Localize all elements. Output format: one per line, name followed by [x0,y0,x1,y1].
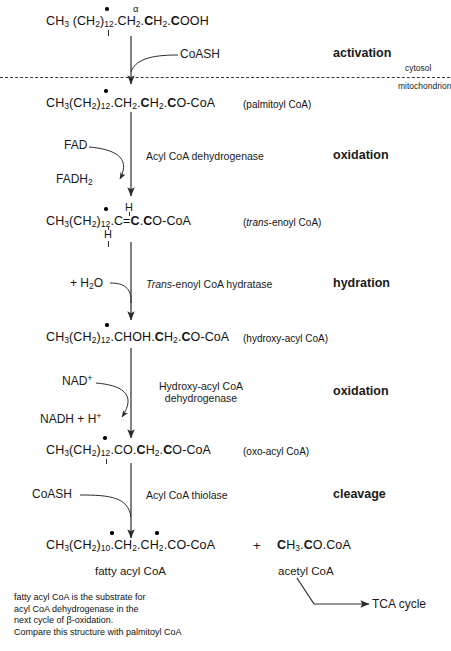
stage-label-activation: activation [333,46,391,60]
product-name-fatty-acyl-coa: fatty acyl CoA [95,565,166,577]
stage-label-oxidation-1: oxidation [333,148,389,162]
molecule-oxo-acyl-coa: CH3(CH2)12.CO.CH2.CO-CoA [46,443,211,458]
output-tca-cycle: TCA cycle [372,597,426,611]
cofactor-coash-thiolase: CoASH [32,487,72,501]
cofactor-fadh2: FADH2 [56,172,93,187]
enzyme-line-2: dehydrogenase [146,392,256,404]
hydroxy-acyl-coa-formula: CH3(CH2)12.CHOH.CH2.CO-CoA [46,330,229,344]
acetyl-coa-formula: CH3.CO.CoA [277,538,351,552]
palmitic-acid-formula: CH3 (CH2)12.CH2.CH2.COOH [46,14,209,28]
molecule-hydroxy-acyl-coa: CH3(CH2)12.CHOH.CH2.CO-CoA [46,330,229,345]
product-name-acetyl-coa: acetyl CoA [278,565,334,577]
enzyme-hydroxy-acyl-coa-dehydrogenase: Hydroxy-acyl CoA dehydrogenase [146,380,256,404]
enzyme-trans-enoyl-coa-hydratase: Trans-enoyl CoA hydratase [146,278,272,290]
bond-stub-1 [108,30,109,36]
cofactor-fad: FAD [64,138,87,152]
arrow-to-tca-cycle [297,578,369,604]
cofactor-nad-plus: NAD+ [62,373,93,388]
compartment-label-mitochondrion: mitochondrion [398,81,451,91]
fatty-acyl-coa-formula: CH3(CH2)10.CH2.CH2.CO-CoA [46,538,215,552]
trans-enoyl-coa-formula: CH3(CH2)12.C=C.CO-CoA [46,214,191,228]
molecule-trans-enoyl-coa: CH3(CH2)12.C=C.CO-CoA [46,214,191,229]
molecule-acetyl-coa: CH3.CO.CoA [277,538,351,553]
oxo-acyl-coa-formula: CH3(CH2)12.CO.CH2.CO-CoA [46,443,211,457]
molecule-palmitic-acid: CH3 (CH2)12.CH2.CH2.COOH [46,14,209,29]
bond-stub-h-top [129,212,130,216]
enzyme-line-1: Hydroxy-acyl CoA [146,380,256,392]
beta-carbon-dot-3 [104,207,108,211]
cofactor-water: + H2O [70,276,103,291]
palmitoyl-coa-formula: CH3(CH2)12.CH2.CH2.CO-CoA [46,96,215,110]
cofactor-nadh: NADH + H+ [40,411,102,426]
plus-sign: + [253,538,261,553]
bond-stub-5 [106,459,107,464]
fad-to-fadh2-curve [89,147,124,179]
beta-carbon-dot-5 [103,436,107,440]
footnote-line-3: next cycle of β-oxidation. [14,615,182,627]
stage-label-hydration: hydration [333,276,390,290]
annotation-oxo-acyl-coa: (oxo-acyl CoA) [243,446,309,457]
beta-carbon-dot-1 [105,7,109,11]
bond-stub-3 [108,241,109,247]
carbon-dot-product-2 [155,531,159,535]
footnote-line-4: Compare this structure with palmitoyl Co… [14,627,182,639]
water-feed-curve [110,283,131,303]
annotation-palmitoyl-coa: (palmitoyl CoA) [243,99,311,110]
enzyme-acyl-coa-thiolase: Acyl CoA thiolase [146,489,228,501]
mitochondrial-membrane-line [0,77,450,78]
bond-stub-h-bottom [108,226,109,230]
beta-carbon-dot-2 [104,89,108,93]
coash-activation-curve [131,55,178,72]
cofactor-coash-activation: CoASH [180,47,220,61]
stage-label-oxidation-2: oxidation [333,384,389,398]
footnote-line-1: fatty acyl CoA is the substrate for [14,592,182,604]
enzyme-acyl-coa-dehydrogenase: Acyl CoA dehydrogenase [146,150,264,162]
molecule-palmitoyl-coa: CH3(CH2)12.CH2.CH2.CO-CoA [46,96,215,111]
stage-label-cleavage: cleavage [333,487,386,501]
carbon-dot-product-1 [110,531,114,535]
footnote-block: fatty acyl CoA is the substrate for acyl… [14,592,182,638]
coash-thiolase-curve [80,495,131,517]
annotation-trans-enoyl-coa: (trans-enoyl CoA) [243,217,321,228]
alpha-carbon-label: α [133,3,139,14]
compartment-label-cytosol: cytosol [405,63,431,73]
annotation-hydroxy-acyl-coa: (hydroxy-acyl CoA) [243,333,328,344]
molecule-fatty-acyl-coa: CH3(CH2)10.CH2.CH2.CO-CoA [46,538,215,553]
footnote-line-2: acyl CoA dehydrogenase in the [14,604,182,616]
beta-carbon-dot-4 [105,323,109,327]
